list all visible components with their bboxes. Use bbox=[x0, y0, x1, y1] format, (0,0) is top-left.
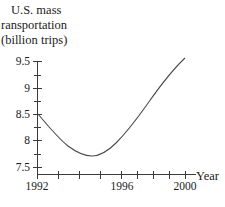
x-tick-label-1992: 1992 bbox=[15, 181, 59, 193]
plot-area bbox=[0, 0, 225, 207]
x-tick-label-1996: 1996 bbox=[100, 181, 144, 193]
y-tick-label-9-5: 9.5 bbox=[2, 56, 30, 68]
data-curve bbox=[38, 58, 185, 156]
y-tick-label-7-5: 7.5 bbox=[2, 162, 30, 174]
y-tick-label-8-5: 8.5 bbox=[2, 109, 30, 121]
chart-figure: U.S. mass ransportation (billion trips) bbox=[0, 0, 225, 207]
y-tick-label-9: 9 bbox=[2, 83, 30, 95]
y-tick-label-8: 8 bbox=[2, 135, 30, 147]
x-axis-title: Year bbox=[196, 170, 219, 183]
